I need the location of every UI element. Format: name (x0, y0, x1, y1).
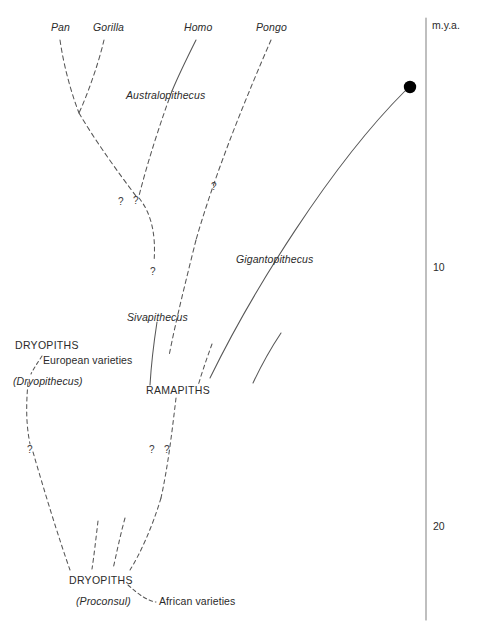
label-gigantopithecus: Gigantopithecus (236, 254, 313, 265)
branch-detached-segment (253, 333, 281, 383)
label-homo: Homo (184, 22, 212, 33)
branch-pan (60, 40, 79, 113)
question-mark-7: ? (164, 445, 170, 455)
label-ramapiths: RAMAPITHS (146, 385, 210, 396)
question-mark-1: ? (118, 197, 124, 207)
label-australopithecus: Australopithecus (126, 90, 205, 101)
question-mark-5: ? (27, 445, 33, 455)
branch-sivapithecus (150, 322, 157, 385)
branch-european-varieties-tick (31, 356, 42, 374)
axis-tick-10: 10 (433, 262, 445, 273)
branch-african-varieties-connector (128, 585, 156, 602)
label-european-varieties: European varieties (43, 355, 132, 366)
branch-pongo (196, 40, 271, 240)
axis-tick-20: 20 (433, 521, 445, 532)
label-dryopithecus: (Dryopithecus) (13, 376, 83, 387)
label-gorilla: Gorilla (93, 22, 124, 33)
question-mark-3: ? (211, 182, 217, 192)
branch-unnamed-b (113, 518, 125, 569)
label-african-varieties: African varieties (159, 596, 235, 607)
branch-gigantopithecus (210, 91, 405, 378)
branch-hominid-stem (139, 198, 154, 262)
branch-ramapiths-stem-lower (130, 498, 161, 570)
branch-pongo-lower (169, 240, 196, 356)
branch-african-ape-stem (79, 113, 136, 196)
branch-dryopithecus-lower (33, 452, 70, 570)
branch-gorilla (79, 40, 104, 113)
branch-australopithecus (139, 91, 172, 196)
tree-lines (0, 0, 479, 638)
branch-ramapith-dashed-spur (198, 344, 212, 386)
label-pan: Pan (51, 22, 70, 33)
label-dryopiths-upper: DRYOPITHS (15, 340, 79, 351)
axis-unit-label: m.y.a. (432, 20, 460, 31)
question-mark-4: ? (150, 267, 156, 277)
gigantopithecus-terminal-dot (404, 81, 416, 93)
branch-unnamed-a (92, 521, 98, 569)
question-mark-2: ? (133, 196, 139, 206)
branch-dryopithecus (27, 382, 30, 444)
label-dryopiths-lower: DRYOPITHS (69, 575, 133, 586)
label-proconsul: (Proconsul) (76, 596, 131, 607)
question-mark-6: ? (149, 445, 155, 455)
branch-homo-solid (172, 40, 196, 91)
label-pongo: Pongo (256, 22, 287, 33)
phylogeny-figure: Pan Gorilla Homo Pongo Australopithecus … (0, 0, 479, 638)
label-sivapithecus: Sivapithecus (127, 312, 188, 323)
